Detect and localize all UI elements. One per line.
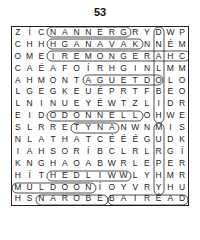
- grid-cell[interactable]: M: [24, 51, 36, 63]
- grid-cell[interactable]: B: [106, 193, 118, 205]
- grid-cell[interactable]: N: [82, 39, 94, 51]
- grid-cell[interactable]: E: [71, 98, 83, 110]
- grid-cell[interactable]: N: [24, 158, 36, 170]
- grid-cell[interactable]: N: [141, 122, 153, 134]
- grid-cell[interactable]: R: [129, 27, 141, 39]
- grid-cell[interactable]: E: [176, 110, 188, 122]
- grid-cell[interactable]: R: [106, 27, 118, 39]
- grid-cell[interactable]: A: [71, 134, 83, 146]
- grid-cell[interactable]: D: [47, 182, 59, 194]
- grid-cell[interactable]: G: [118, 51, 130, 63]
- grid-cell[interactable]: B: [94, 158, 106, 170]
- grid-cell[interactable]: H: [47, 158, 59, 170]
- grid-cell[interactable]: É: [94, 98, 106, 110]
- grid-cell[interactable]: U: [59, 98, 71, 110]
- grid-cell[interactable]: E: [129, 51, 141, 63]
- grid-cell[interactable]: E: [141, 158, 153, 170]
- grid-cell[interactable]: O: [71, 182, 83, 194]
- grid-cell[interactable]: Í: [94, 182, 106, 194]
- grid-cell[interactable]: Y: [141, 170, 153, 182]
- grid-cell[interactable]: D: [153, 27, 165, 39]
- grid-cell[interactable]: Y: [118, 182, 130, 194]
- grid-cell[interactable]: R: [153, 146, 165, 158]
- grid-cell[interactable]: D: [141, 75, 153, 87]
- grid-cell[interactable]: G: [141, 134, 153, 146]
- grid-cell[interactable]: G: [118, 27, 130, 39]
- grid-cell[interactable]: O: [12, 51, 24, 63]
- grid-cell[interactable]: V: [106, 39, 118, 51]
- grid-cell[interactable]: H: [47, 39, 59, 51]
- grid-cell[interactable]: K: [12, 158, 24, 170]
- grid-cell[interactable]: K: [129, 39, 141, 51]
- grid-cell[interactable]: L: [24, 122, 36, 134]
- grid-cell[interactable]: S: [12, 122, 24, 134]
- grid-cell[interactable]: N: [106, 51, 118, 63]
- grid-cell[interactable]: N: [82, 27, 94, 39]
- grid-cell[interactable]: H: [106, 63, 118, 75]
- grid-cell[interactable]: O: [176, 86, 188, 98]
- grid-cell[interactable]: É: [165, 39, 177, 51]
- grid-cell[interactable]: H: [12, 170, 24, 182]
- grid-cell[interactable]: E: [71, 51, 83, 63]
- grid-cell[interactable]: N: [71, 27, 83, 39]
- grid-cell[interactable]: É: [35, 63, 47, 75]
- grid-cell[interactable]: D: [35, 110, 47, 122]
- grid-cell[interactable]: N: [47, 27, 59, 39]
- grid-cell[interactable]: R: [71, 146, 83, 158]
- grid-cell[interactable]: R: [118, 86, 130, 98]
- grid-cell[interactable]: L: [141, 98, 153, 110]
- grid-cell[interactable]: N: [94, 122, 106, 134]
- grid-cell[interactable]: L: [153, 63, 165, 75]
- grid-cell[interactable]: T: [35, 170, 47, 182]
- grid-cell[interactable]: C: [12, 63, 24, 75]
- grid-cell[interactable]: U: [24, 182, 36, 194]
- grid-cell[interactable]: L: [12, 98, 24, 110]
- grid-cell[interactable]: P: [153, 158, 165, 170]
- grid-cell[interactable]: A: [94, 39, 106, 51]
- grid-cell[interactable]: E: [59, 122, 71, 134]
- grid-cell[interactable]: O: [94, 51, 106, 63]
- grid-cell[interactable]: F: [141, 86, 153, 98]
- grid-cell[interactable]: C: [94, 134, 106, 146]
- grid-cell[interactable]: M: [12, 182, 24, 194]
- grid-cell[interactable]: L: [129, 110, 141, 122]
- grid-cell[interactable]: K: [176, 134, 188, 146]
- grid-cell[interactable]: O: [47, 75, 59, 87]
- grid-cell[interactable]: H: [24, 75, 36, 87]
- grid-cell[interactable]: D: [165, 134, 177, 146]
- grid-cell[interactable]: I: [129, 63, 141, 75]
- grid-cell[interactable]: A: [82, 158, 94, 170]
- grid-cell[interactable]: N: [94, 110, 106, 122]
- grid-cell[interactable]: O: [59, 146, 71, 158]
- grid-cell[interactable]: W: [129, 122, 141, 134]
- grid-cell[interactable]: N: [24, 98, 36, 110]
- grid-cell[interactable]: U: [153, 134, 165, 146]
- grid-cell[interactable]: Z: [129, 98, 141, 110]
- grid-cell[interactable]: O: [71, 63, 83, 75]
- grid-cell[interactable]: H: [35, 39, 47, 51]
- grid-cell[interactable]: R: [176, 170, 188, 182]
- grid-cell[interactable]: E: [59, 170, 71, 182]
- grid-cell[interactable]: R: [118, 158, 130, 170]
- grid-cell[interactable]: E: [35, 86, 47, 98]
- grid-cell[interactable]: O: [141, 110, 153, 122]
- grid-cell[interactable]: R: [141, 51, 153, 63]
- grid-cell[interactable]: O: [71, 158, 83, 170]
- grid-cell[interactable]: C: [176, 51, 188, 63]
- grid-cell[interactable]: N: [82, 110, 94, 122]
- grid-cell[interactable]: A: [153, 51, 165, 63]
- grid-cell[interactable]: A: [82, 75, 94, 87]
- grid-cell[interactable]: N: [141, 39, 153, 51]
- grid-cell[interactable]: L: [12, 86, 24, 98]
- grid-cell[interactable]: Z: [12, 27, 24, 39]
- grid-cell[interactable]: D: [71, 170, 83, 182]
- grid-cell[interactable]: S: [47, 146, 59, 158]
- grid-cell[interactable]: G: [24, 86, 36, 98]
- grid-cell[interactable]: N: [118, 122, 130, 134]
- grid-cell[interactable]: A: [24, 63, 36, 75]
- grid-cell[interactable]: Y: [82, 122, 94, 134]
- grid-cell[interactable]: R: [176, 98, 188, 110]
- grid-cell[interactable]: M: [82, 51, 94, 63]
- grid-cell[interactable]: E: [165, 158, 177, 170]
- grid-cell[interactable]: U: [176, 182, 188, 194]
